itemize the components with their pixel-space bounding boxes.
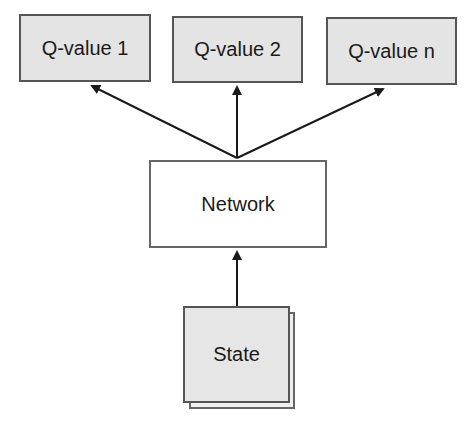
state-label: State (213, 343, 260, 366)
q-value-1-label: Q-value 1 (42, 37, 129, 60)
q-value-n-label: Q-value n (348, 40, 435, 63)
q-value-n-box: Q-value n (326, 17, 457, 85)
q-value-2-box: Q-value 2 (172, 16, 303, 83)
q-value-1-box: Q-value 1 (19, 14, 151, 82)
q-value-2-label: Q-value 2 (194, 38, 281, 61)
arrow-network-to-qn (237, 89, 383, 158)
arrow-network-to-q1 (92, 86, 237, 158)
network-box: Network (149, 160, 327, 248)
state-box: State (183, 306, 290, 403)
network-label: Network (201, 193, 274, 216)
